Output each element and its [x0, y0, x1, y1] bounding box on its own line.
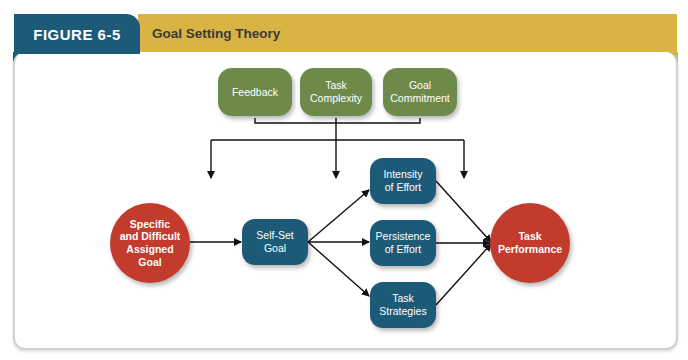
arrow-strategies-to-performance: [436, 244, 491, 305]
node-self-set-goal: Self-Set Goal: [242, 219, 308, 265]
node-task-strategies: Task Strategies: [370, 282, 436, 328]
node-intensity-of-effort: Intensity of Effort: [370, 158, 436, 204]
arrow-selfset-to-intensity: [308, 190, 369, 242]
connector-lines: [0, 0, 688, 360]
arrow-intensity-to-performance: [436, 181, 491, 242]
node-task-complexity: Task Complexity: [300, 68, 372, 116]
node-task-performance: Task Performance: [490, 203, 570, 283]
node-goal-commitment: Goal Commitment: [383, 68, 457, 116]
moderator-bracket: [255, 118, 420, 123]
arrow-selfset-to-strategies: [308, 242, 369, 296]
node-assigned-goal: Specific and Difficult Assigned Goal: [110, 203, 190, 283]
node-feedback: Feedback: [218, 68, 292, 116]
node-persistence-of-effort: Persistence of Effort: [370, 220, 436, 266]
